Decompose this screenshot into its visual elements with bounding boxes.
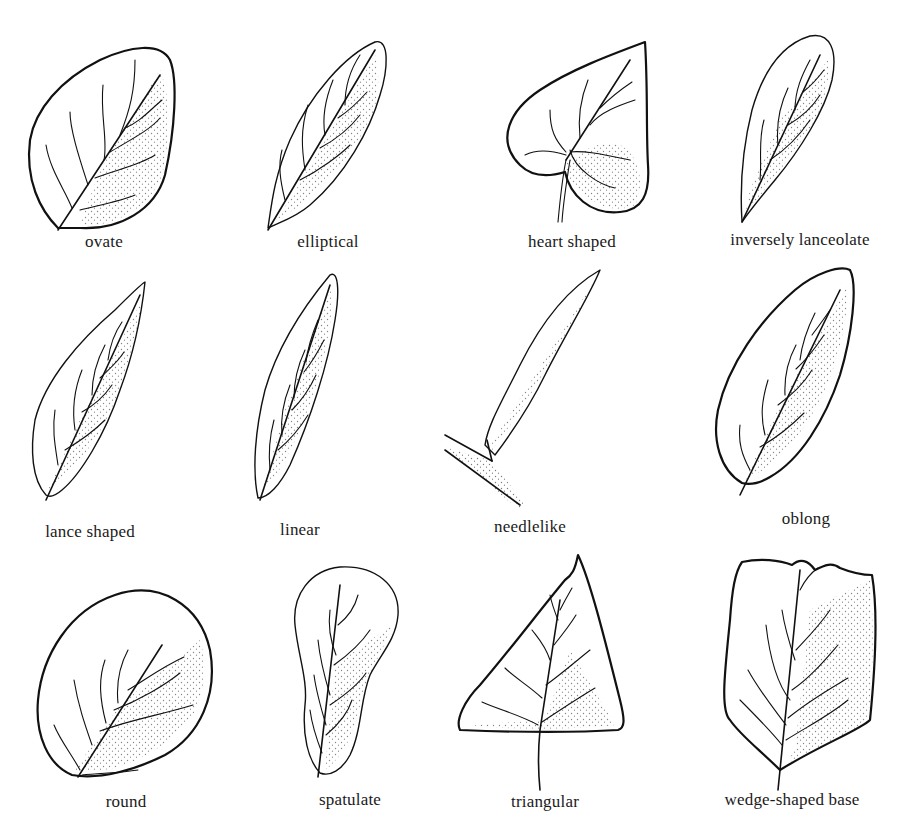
- leaf-label: inversely lanceolate: [730, 230, 869, 250]
- ovate-leaf-icon: [0, 0, 200, 260]
- lance-shaped-leaf-icon: [0, 270, 200, 540]
- leaf-label: wedge-shaped base: [724, 790, 859, 810]
- leaf-heart-shaped: heart shaped: [470, 0, 690, 260]
- leaf-ovate: ovate: [0, 0, 200, 260]
- inversely-lanceolate-leaf-icon: [700, 0, 904, 260]
- leaf-label: elliptical: [297, 232, 358, 252]
- oblong-leaf-icon: [700, 265, 904, 540]
- leaf-round: round: [0, 555, 220, 839]
- heart-shaped-leaf-icon: [470, 0, 690, 260]
- leaf-spatulate: spatulate: [280, 555, 420, 839]
- leaf-label: linear: [280, 520, 320, 540]
- leaf-label: heart shaped: [528, 232, 616, 252]
- leaf-inversely-lanceolate: inversely lanceolate: [700, 0, 904, 260]
- leaf-triangular: triangular: [450, 550, 650, 839]
- leaf-wedge-shaped-base: wedge-shaped base: [700, 550, 904, 839]
- leaf-label: round: [106, 792, 147, 812]
- leaf-label: triangular: [511, 792, 579, 812]
- leaf-label: ovate: [85, 232, 123, 252]
- linear-leaf-icon: [230, 270, 430, 540]
- leaf-needlelike: needlelike: [440, 265, 640, 540]
- leaf-oblong: oblong: [700, 265, 904, 540]
- leaf-linear: linear: [230, 270, 430, 540]
- elliptical-leaf-icon: [230, 0, 430, 260]
- leaf-lance-shaped: lance shaped: [0, 270, 200, 540]
- leaf-label: lance shaped: [45, 522, 135, 542]
- leaf-elliptical: elliptical: [230, 0, 430, 260]
- leaf-label: spatulate: [319, 790, 381, 810]
- needlelike-leaf-icon: [440, 265, 640, 540]
- leaf-label: needlelike: [494, 517, 566, 537]
- leaf-label: oblong: [782, 509, 830, 529]
